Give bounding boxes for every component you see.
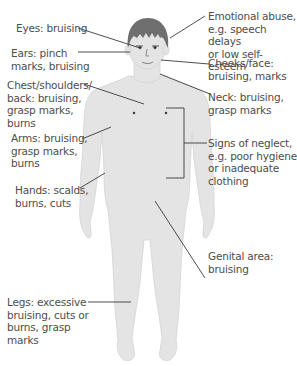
label-eyes: Eyes: bruising — [16, 22, 87, 35]
label-legs: Legs: excessive bruising, cuts or burns,… — [7, 296, 89, 346]
label-hands: Hands: scalds, burns, cuts — [15, 184, 88, 209]
label-cheeks: Cheeks/face: bruising, marks — [208, 57, 286, 82]
body-outline — [80, 21, 215, 361]
label-genital: Genital area: bruising — [208, 250, 273, 275]
label-neglect: Signs of neglect, e.g. poor hygiene or i… — [208, 137, 297, 187]
label-ears: Ears: pinch marks, bruising — [11, 47, 89, 72]
label-arms: Arms: bruising, grasp marks, burns — [11, 132, 88, 170]
label-chest: Chest/shoulders/ back: bruising, grasp m… — [7, 79, 92, 129]
label-neck: Neck: bruising, grasp marks — [208, 91, 284, 116]
